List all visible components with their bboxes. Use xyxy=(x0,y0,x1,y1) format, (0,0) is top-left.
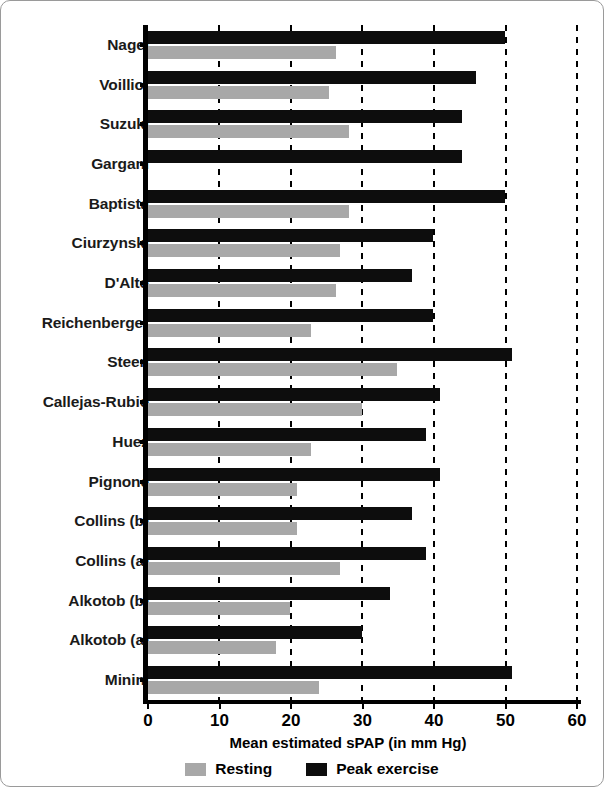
x-axis-tick xyxy=(147,700,149,709)
legend-swatch-peak-exercise-icon xyxy=(306,763,327,776)
category-label: Collins (a) xyxy=(75,552,149,570)
bar-resting xyxy=(147,125,349,138)
bar-peak-exercise xyxy=(147,348,512,361)
legend-label-peak-exercise: Peak exercise xyxy=(336,760,439,778)
bar-peak-exercise xyxy=(147,388,440,401)
x-axis-title: Mean estimated sPAP (in mm Hg) xyxy=(1,734,604,751)
category-label: Alkotob (a) xyxy=(69,631,149,649)
bar-resting xyxy=(147,483,297,496)
bar-row: Gargani xyxy=(1,144,604,184)
bar-resting xyxy=(147,641,276,654)
category-label: Callejas-Rubio xyxy=(43,393,149,411)
bar-row: Steen xyxy=(1,343,604,383)
legend-item-peak-exercise: Peak exercise xyxy=(306,760,439,778)
bar-row: Callejas-Rubio xyxy=(1,382,604,422)
x-axis-tick xyxy=(219,700,221,709)
legend-swatch-resting-icon xyxy=(185,763,206,776)
bar-row: Ciurzynski xyxy=(1,224,604,264)
bar-resting xyxy=(147,86,329,99)
x-axis-title-text: Mean estimated sPAP (in mm Hg) xyxy=(140,734,467,751)
x-axis-tick xyxy=(505,700,507,709)
bar-resting xyxy=(147,602,290,615)
bar-peak-exercise xyxy=(147,309,433,322)
bar-resting xyxy=(147,205,349,218)
bar-row: Baptista xyxy=(1,184,604,224)
bar-resting xyxy=(147,403,362,416)
category-label: Ciurzynski xyxy=(72,234,149,252)
bar-peak-exercise xyxy=(147,547,426,560)
bar-resting xyxy=(147,244,340,257)
x-axis-tick-label: 0 xyxy=(143,711,152,731)
bar-peak-exercise xyxy=(147,110,462,123)
bar-row: Alkotob (a) xyxy=(1,621,604,661)
bar-row: Suzuki xyxy=(1,104,604,144)
bar-peak-exercise xyxy=(147,71,476,84)
figure-panel: NagelVoilliotSuzukiGarganiBaptistaCiurzy… xyxy=(0,0,604,787)
bar-peak-exercise xyxy=(147,587,390,600)
bar-peak-exercise xyxy=(147,150,462,163)
bar-peak-exercise xyxy=(147,666,512,679)
category-label: Collins (b) xyxy=(74,512,149,530)
x-axis-tick-label: 10 xyxy=(210,711,229,731)
x-axis-tick-label: 50 xyxy=(496,711,515,731)
bar-peak-exercise xyxy=(147,468,440,481)
x-axis-tick-label: 60 xyxy=(568,711,587,731)
bar-row: Alkotob (b) xyxy=(1,581,604,621)
x-axis-tick xyxy=(362,700,364,709)
legend-label-resting: Resting xyxy=(215,760,272,778)
bar-row: Nagel xyxy=(1,25,604,65)
bar-peak-exercise xyxy=(147,229,433,242)
bar-peak-exercise xyxy=(147,269,412,282)
bar-resting xyxy=(147,522,297,535)
bar-resting xyxy=(147,363,397,376)
legend-item-resting: Resting xyxy=(185,760,272,778)
y-axis-line xyxy=(143,25,148,701)
bar-chart-plot: NagelVoilliotSuzukiGarganiBaptistaCiurzy… xyxy=(1,1,604,787)
x-axis-tick-label: 20 xyxy=(282,711,301,731)
bar-peak-exercise xyxy=(147,428,426,441)
bar-resting xyxy=(147,284,336,297)
bar-peak-exercise xyxy=(147,507,412,520)
bar-row: Reichenberger xyxy=(1,303,604,343)
bar-resting xyxy=(147,562,340,575)
bar-row: Pignone xyxy=(1,462,604,502)
bar-resting xyxy=(147,681,319,694)
bar-row: Voilliot xyxy=(1,65,604,105)
x-axis-tick xyxy=(433,700,435,709)
bar-row: Collins (a) xyxy=(1,541,604,581)
chart-legend: Resting Peak exercise xyxy=(1,760,604,778)
category-label: Reichenberger xyxy=(42,314,149,332)
bar-peak-exercise xyxy=(147,190,505,203)
x-axis-tick-label: 30 xyxy=(353,711,372,731)
bar-row: Collins (b) xyxy=(1,501,604,541)
bar-resting xyxy=(147,46,336,59)
bar-peak-exercise xyxy=(147,31,505,44)
bar-peak-exercise xyxy=(147,626,362,639)
x-axis-tick-label: 40 xyxy=(425,711,444,731)
bar-row: Minini xyxy=(1,660,604,700)
bar-resting xyxy=(147,443,311,456)
x-axis-tick xyxy=(576,700,578,709)
bar-resting xyxy=(147,324,311,337)
bar-row: D'Alto xyxy=(1,263,604,303)
x-axis-tick xyxy=(290,700,292,709)
bar-row: Huez xyxy=(1,422,604,462)
category-label: Alkotob (b) xyxy=(68,592,149,610)
